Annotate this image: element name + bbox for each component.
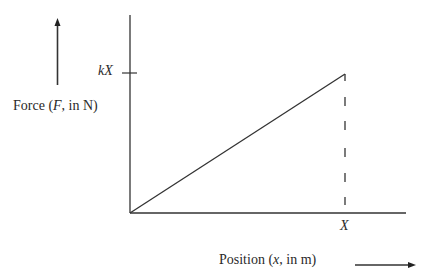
- y-axis-label-prefix: Force (: [13, 98, 53, 113]
- force-position-diagram: Force (F, in N) kX X Position (x, in m): [0, 0, 424, 277]
- force-line: [130, 74, 345, 213]
- x-axis-label-prefix: Position (: [219, 252, 273, 267]
- x-axis-label: Position (x, in m): [219, 252, 316, 268]
- y-axis-label-suffix: , in N): [62, 98, 98, 113]
- x-axis-label-suffix: , in m): [279, 252, 316, 267]
- diagram-canvas: [0, 0, 424, 277]
- x-tick-label: X: [340, 218, 349, 234]
- y-tick-label: kX: [98, 63, 113, 79]
- y-axis-label-variable: F: [53, 98, 62, 113]
- y-axis-label: Force (F, in N): [13, 98, 98, 114]
